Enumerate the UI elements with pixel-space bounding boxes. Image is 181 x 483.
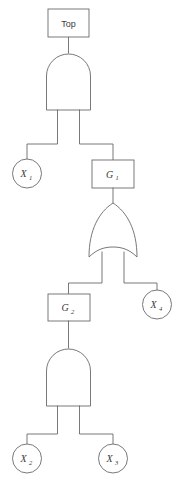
node-basic-event-x4[interactable]: X 4 <box>143 290 172 319</box>
node-basic-event-x3[interactable]: X 3 <box>99 444 128 473</box>
node-basic-event-x1-label: X <box>19 168 27 179</box>
or-gate-middle[interactable] <box>89 203 137 257</box>
fault-tree-diagram: Top X 1 G 1 X <box>0 0 181 483</box>
node-basic-event-x2-label: X <box>19 453 27 464</box>
node-top-event[interactable]: Top <box>48 9 89 37</box>
node-intermediate-event-g1-subscript: 1 <box>115 174 118 181</box>
node-top-event-label: Top <box>61 19 76 29</box>
connector-and-top-to-g1 <box>80 110 114 160</box>
node-intermediate-event-g1[interactable]: G 1 <box>92 160 134 188</box>
node-basic-event-x4-label: X <box>149 299 157 310</box>
node-basic-event-x1-subscript: 1 <box>29 174 32 181</box>
connector-or-to-g2 <box>69 252 103 294</box>
node-intermediate-event-g2[interactable]: G 2 <box>48 294 90 321</box>
connector-and-top-to-x1 <box>27 110 58 159</box>
node-basic-event-x3-label: X <box>105 453 113 464</box>
connector-and-bottom-to-x2 <box>27 406 58 444</box>
node-basic-event-x2[interactable]: X 2 <box>13 444 42 473</box>
node-intermediate-event-g2-label: G <box>61 302 68 313</box>
and-gate-top[interactable] <box>47 54 91 110</box>
node-basic-event-x1[interactable]: X 1 <box>13 159 42 188</box>
connector-or-to-x4 <box>124 252 157 290</box>
node-intermediate-event-g1-label: G <box>106 169 113 180</box>
and-gate-bottom[interactable] <box>47 349 91 406</box>
connector-and-bottom-to-x3 <box>80 406 114 444</box>
